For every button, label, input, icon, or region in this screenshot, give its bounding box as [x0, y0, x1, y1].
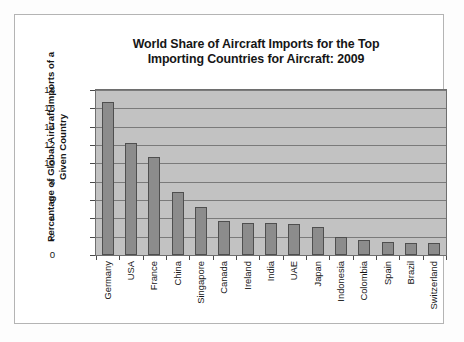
x-tick-mark: [283, 256, 284, 260]
x-tick-label: Colombia: [359, 261, 369, 301]
x-tick-mark: [329, 256, 330, 260]
bar: [358, 240, 370, 255]
bar: [125, 143, 137, 255]
x-tick-label: Singapore: [196, 261, 206, 304]
y-tick-label: 4: [33, 212, 55, 223]
x-label-slot: Colombia: [353, 261, 376, 337]
x-tick-label: Germany: [103, 261, 113, 300]
x-tick-label: Ireland: [243, 261, 253, 290]
x-tick-label: USA: [126, 261, 136, 280]
x-tick-label: Indonesia: [336, 261, 346, 302]
x-tick-mark: [236, 256, 237, 260]
x-label-slot: Brazil: [399, 261, 422, 337]
y-tick-mark: [90, 145, 95, 146]
x-tick-label: Japan: [313, 261, 323, 287]
y-tick-label: 2: [33, 231, 55, 242]
y-tick-mark: [90, 108, 95, 109]
y-tick-label: 14: [33, 121, 55, 132]
x-label-slot: Germany: [96, 261, 119, 337]
bar: [428, 243, 440, 255]
x-tick-mark: [353, 256, 354, 260]
x-label-slot: Canada: [213, 261, 236, 337]
x-tick-mark: [306, 256, 307, 260]
y-tick-label: 8: [33, 176, 55, 187]
x-tick-label: France: [149, 261, 159, 290]
bar: [242, 223, 254, 255]
x-tick-label: India: [266, 261, 276, 281]
x-tick-mark: [119, 256, 120, 260]
chart-title-line1: World Share of Aircraft Imports for the …: [133, 37, 380, 51]
x-tick-label: Canada: [219, 261, 229, 294]
x-tick-mark: [259, 256, 260, 260]
chart-title-line2: Importing Countries for Aircraft: 2009: [71, 52, 441, 67]
y-tick-mark: [90, 200, 95, 201]
chart-frame: World Share of Aircraft Imports for the …: [14, 14, 444, 324]
bar: [312, 227, 324, 255]
x-label-slot: Ireland: [236, 261, 259, 337]
x-tick-mark: [189, 256, 190, 260]
x-label-slot: UAE: [283, 261, 306, 337]
x-tick-mark: [143, 256, 144, 260]
y-tick-mark: [90, 163, 95, 164]
y-tick-mark: [90, 182, 95, 183]
y-tick-label: 6: [33, 194, 55, 205]
y-tick-mark: [90, 255, 95, 256]
x-label-slot: France: [143, 261, 166, 337]
bar: [335, 237, 347, 255]
x-label-slot: Indonesia: [329, 261, 352, 337]
y-tick-label: 18: [33, 84, 55, 95]
bar: [102, 102, 114, 255]
x-label-slot: Japan: [306, 261, 329, 337]
scanned-page: World Share of Aircraft Imports for the …: [0, 0, 464, 342]
x-tick-label: UAE: [289, 261, 299, 280]
x-axis-labels: GermanyUSAFranceChinaSingaporeCanadaIrel…: [96, 261, 447, 337]
x-label-slot: India: [259, 261, 282, 337]
x-tick-mark: [213, 256, 214, 260]
x-tick-label: Brazil: [406, 261, 416, 284]
bar-series: [96, 90, 446, 255]
x-label-slot: Spain: [376, 261, 399, 337]
x-tick-mark: [446, 256, 447, 260]
x-tick-label: Spain: [383, 261, 393, 285]
y-tick-mark: [90, 127, 95, 128]
y-tick-mark: [90, 237, 95, 238]
x-label-slot: China: [166, 261, 189, 337]
x-label-slot: USA: [119, 261, 142, 337]
x-tick-mark: [399, 256, 400, 260]
y-tick-label: 12: [33, 139, 55, 150]
bar: [405, 243, 417, 255]
x-tick-label: China: [173, 261, 183, 286]
x-label-slot: Switzerland: [423, 261, 446, 337]
x-tick-label: Switzerland: [429, 261, 439, 309]
y-tick-label: 0: [33, 249, 55, 260]
chart-title: World Share of Aircraft Imports for the …: [71, 37, 441, 67]
y-tick-mark: [90, 90, 95, 91]
bar: [195, 207, 207, 255]
bar: [265, 223, 277, 255]
x-tick-mark: [423, 256, 424, 260]
y-tick-label: 10: [33, 157, 55, 168]
bar: [172, 192, 184, 255]
bar: [288, 224, 300, 255]
bar: [148, 157, 160, 255]
x-tick-mark: [96, 256, 97, 260]
x-tick-mark: [376, 256, 377, 260]
bar: [218, 221, 230, 255]
y-tick-label: 16: [33, 102, 55, 113]
x-label-slot: Singapore: [189, 261, 212, 337]
x-tick-mark: [166, 256, 167, 260]
y-axis-title-line2: Given Country: [57, 32, 69, 262]
bar: [382, 242, 394, 255]
y-tick-mark: [90, 218, 95, 219]
